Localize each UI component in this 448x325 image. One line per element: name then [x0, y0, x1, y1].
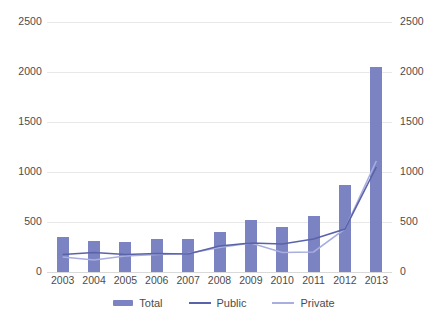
y-axis-left-tick: 2000: [4, 65, 42, 77]
x-axis-tick: 2011: [298, 274, 329, 286]
x-axis-tick: 2012: [329, 274, 360, 286]
y-axis-left-tick: 1000: [4, 165, 42, 177]
y-axis-left-tick: 500: [4, 215, 42, 227]
y-axis-right: 05001000150020002500: [400, 0, 446, 325]
legend-label: Private: [300, 297, 334, 309]
plot-area: [47, 22, 392, 272]
chart-container: 05001000150020002500 0500100015002000250…: [0, 0, 448, 325]
y-axis-left-tick: 1500: [4, 115, 42, 127]
line-series-private: [63, 161, 377, 260]
y-axis-right-tick: 0: [400, 265, 438, 277]
legend-bar-swatch-icon: [113, 300, 133, 306]
y-axis-right-tick: 1500: [400, 115, 438, 127]
y-axis-right-tick: 1000: [400, 165, 438, 177]
y-axis-right-tick: 2000: [400, 65, 438, 77]
y-axis-right-tick: 500: [400, 215, 438, 227]
x-axis-tick: 2004: [78, 274, 109, 286]
x-axis-tick: 2005: [110, 274, 141, 286]
legend-line-swatch-icon: [189, 302, 211, 304]
y-axis-right-tick: 2500: [400, 15, 438, 27]
x-axis-tick: 2006: [141, 274, 172, 286]
chart-legend: TotalPublicPrivate: [0, 293, 448, 313]
y-axis-left-tick: 2500: [4, 15, 42, 27]
legend-item[interactable]: Total: [113, 297, 162, 309]
line-series-group: [47, 22, 392, 272]
y-axis-left: 05001000150020002500: [0, 0, 42, 325]
gridline: [47, 272, 392, 273]
x-axis-tick: 2008: [204, 274, 235, 286]
legend-line-swatch-icon: [272, 302, 294, 304]
x-axis-tick: 2010: [267, 274, 298, 286]
legend-item[interactable]: Private: [272, 297, 334, 309]
legend-label: Public: [217, 297, 247, 309]
legend-label: Total: [139, 297, 162, 309]
legend-item[interactable]: Public: [189, 297, 247, 309]
x-axis-tick: 2007: [172, 274, 203, 286]
x-axis-tick: 2009: [235, 274, 266, 286]
x-axis-tick: 2013: [361, 274, 392, 286]
x-axis-labels: 2003200420052006200720082009201020112012…: [47, 274, 392, 290]
x-axis-tick: 2003: [47, 274, 78, 286]
y-axis-left-tick: 0: [4, 265, 42, 277]
